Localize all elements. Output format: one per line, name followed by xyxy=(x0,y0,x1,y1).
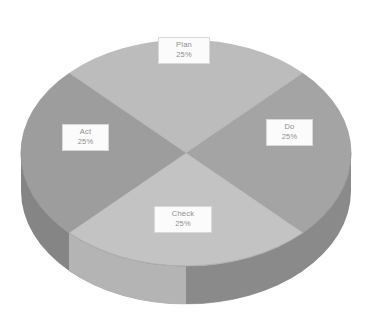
pie-label-plan-name: Plan xyxy=(164,40,204,50)
pie-chart: Plan 25% Do 25% Act 25% Check 25% xyxy=(0,0,373,325)
pie-label-do-name: Do xyxy=(272,122,307,132)
pie-label-check: Check 25% xyxy=(154,206,212,233)
pie-label-check-value: 25% xyxy=(160,219,206,229)
pie-label-check-name: Check xyxy=(160,209,206,219)
pie-label-do: Do 25% xyxy=(266,119,313,146)
pie-label-do-value: 25% xyxy=(272,132,307,142)
pie-label-act-name: Act xyxy=(68,127,103,137)
pie-label-act-value: 25% xyxy=(68,137,103,147)
pie-label-plan: Plan 25% xyxy=(158,37,210,64)
pie-label-act: Act 25% xyxy=(62,124,109,151)
pie-label-plan-value: 25% xyxy=(164,50,204,60)
